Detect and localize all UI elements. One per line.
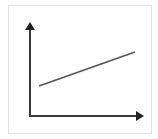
y-axis-arrow-icon: [25, 22, 35, 30]
x-axis-arrow-icon: [136, 111, 144, 121]
y-axis: [25, 22, 35, 116]
x-axis: [29, 111, 144, 121]
line-chart-icon: [0, 0, 158, 139]
trend-line: [39, 52, 135, 86]
